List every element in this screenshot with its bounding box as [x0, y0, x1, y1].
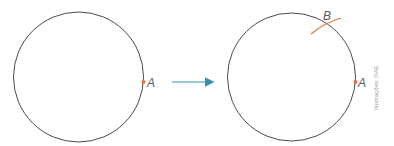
credit-text: Ilustrações: DAE [373, 65, 379, 110]
left-label-a: A [146, 76, 155, 90]
right-point-a [354, 80, 358, 84]
diagram-canvas: A B A Ilustrações: DAE [0, 0, 394, 146]
left-point-a [142, 80, 146, 84]
diagram-svg: A B A [0, 0, 394, 146]
left-circle [14, 12, 144, 142]
right-circle [228, 13, 356, 141]
image-credit: Ilustrações: DAE [373, 40, 387, 110]
right-label-a: A [357, 76, 366, 90]
right-label-b: B [323, 9, 331, 23]
